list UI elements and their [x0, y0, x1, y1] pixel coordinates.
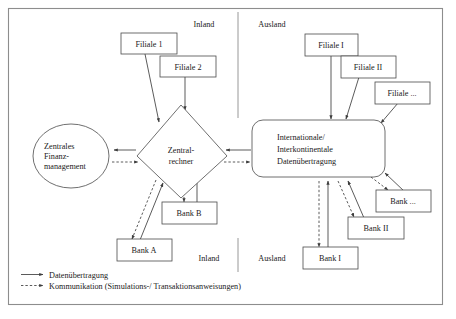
legend-item-communication: Kommunikation (Simulations-/ Transaktion…: [21, 282, 241, 291]
node-branch-for-2-label: Filiale II: [354, 63, 383, 72]
edge-bank-a-to-central-computer-data: [140, 183, 163, 240]
node-bank-a-label: Bank A: [132, 246, 157, 255]
legend-item-data-transfer: Datenübertragung: [21, 271, 108, 280]
node-branch-dom-1-label: Filiale 1: [135, 40, 162, 49]
node-branch-for-1-label: Filiale I: [318, 41, 344, 50]
node-branch-dom-2[interactable]: Filiale 2: [160, 56, 216, 77]
network-diagram: Zentrales Finanz- management Zentral- re…: [0, 0, 456, 319]
node-central-computer-line-1: Zentral-: [168, 146, 195, 155]
node-branch-for-n[interactable]: Filiale ...: [375, 82, 430, 104]
region-label-bottom-left: Inland: [199, 254, 220, 263]
legend: Datenübertragung Kommunikation (Simulati…: [21, 271, 241, 291]
node-international-line-3: Datenübertragung: [277, 157, 336, 166]
node-international-line-2: Interkontinentale: [277, 145, 333, 154]
edge-branch-for-2-to-international: [346, 77, 359, 119]
node-bank-ii[interactable]: Bank II: [348, 217, 404, 239]
node-branch-for-1[interactable]: Filiale I: [305, 34, 358, 56]
node-bank-n[interactable]: Bank ...: [376, 190, 431, 212]
node-central-finance-line-1: Zentrales: [44, 142, 74, 151]
edge-bank-n-to-international-data: [385, 173, 405, 192]
region-label-top-right: Ausland: [258, 20, 285, 29]
node-central-finance-line-3: management: [44, 162, 87, 171]
legend-label-data-transfer: Datenübertragung: [49, 271, 108, 280]
edge-international-to-bank-n-comm: [371, 177, 388, 190]
node-branch-for-n-label: Filiale ...: [387, 89, 416, 98]
edge-bank-ii-to-international-data: [348, 181, 364, 218]
node-bank-n-label: Bank ...: [390, 197, 415, 206]
node-bank-b-label: Bank B: [177, 209, 202, 218]
region-label-bottom-right: Ausland: [258, 254, 285, 263]
node-international-transfer[interactable]: Internationale/ Interkontinentale Datenü…: [252, 120, 385, 177]
node-bank-b[interactable]: Bank B: [162, 202, 217, 224]
edge-branch-for-n-to-international: [381, 103, 398, 123]
node-international-line-1: Internationale/: [277, 133, 325, 142]
diagram-canvas: Zentrales Finanz- management Zentral- re…: [0, 0, 456, 319]
node-bank-i[interactable]: Bank I: [303, 247, 358, 269]
node-central-finance-line-2: Finanz-: [44, 152, 69, 161]
node-central-computer-line-2: rechner: [169, 157, 194, 166]
node-central-computer[interactable]: Zentral- rechner: [137, 105, 227, 198]
node-branch-for-2[interactable]: Filiale II: [341, 56, 396, 78]
node-branch-dom-1[interactable]: Filiale 1: [121, 33, 177, 54]
region-label-top-left: Inland: [194, 20, 215, 29]
node-bank-i-label: Bank I: [319, 254, 341, 263]
node-branch-dom-2-label: Filiale 2: [174, 63, 201, 72]
node-bank-a[interactable]: Bank A: [117, 239, 172, 261]
edge-branch-dom-1-to-central-computer: [145, 54, 159, 122]
node-bank-ii-label: Bank II: [364, 224, 389, 233]
edge-international-to-bank-ii-comm: [338, 181, 354, 217]
node-central-finance[interactable]: Zentrales Finanz- management: [33, 124, 109, 188]
legend-label-communication: Kommunikation (Simulations-/ Transaktion…: [49, 282, 241, 291]
